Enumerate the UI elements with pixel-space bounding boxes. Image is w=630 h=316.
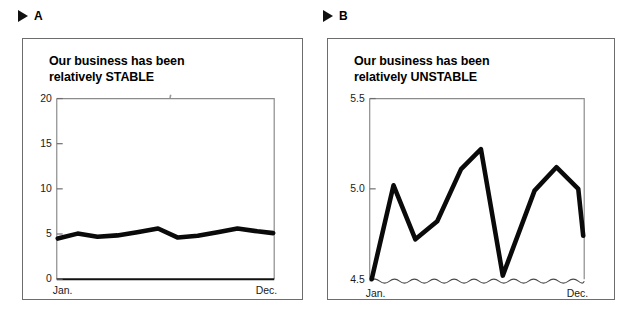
panel-b-letter: B [339, 10, 348, 22]
panel-b: B Our business has been relatively UNSTA… [315, 0, 630, 316]
panel-a-letter: A [34, 10, 43, 22]
panel-b-plot: 4.5 5.0 5.5 Jan. Dec. [328, 39, 614, 299]
panel-b-wavy-axis-break [370, 279, 585, 283]
panel-a: A Our business has been relatively STABL… [0, 0, 315, 316]
panel-b-ylabel-4-5: 4.5 [350, 274, 365, 285]
panel-b-xlabel-start: Jan. [366, 288, 386, 299]
panel-b-data-line [372, 149, 584, 279]
right-triangle-icon [18, 10, 28, 22]
panel-a-ylabel-20: 20 [40, 93, 52, 104]
panel-a-frame-top-right [57, 99, 274, 280]
panel-b-ylabel-5-0: 5.0 [350, 183, 365, 194]
two-panel-line-chart-figure: A Our business has been relatively STABL… [0, 0, 630, 316]
panel-a-xlabel-start: Jan. [53, 285, 73, 296]
panel-b-frame-top-right [370, 99, 585, 280]
panel-a-ylabel-0: 0 [46, 273, 52, 284]
panel-a-ylabel-10: 10 [40, 183, 52, 194]
right-triangle-icon [323, 10, 333, 22]
panel-b-xlabel-end: Dec. [567, 288, 588, 299]
panel-a-ylabel-5: 5 [46, 228, 52, 239]
panel-a-ylabel-15: 15 [40, 138, 52, 149]
panel-a-plot: 0 5 10 15 20 Jan. Dec. [23, 39, 302, 299]
panel-a-xlabel-end: Dec. [256, 285, 277, 296]
panel-b-marker: B [323, 8, 348, 24]
panel-a-marker: A [18, 8, 43, 24]
panel-b-chart-box: Our business has been relatively UNSTABL… [327, 38, 615, 300]
panel-a-chart-box: Our business has been relatively STABLE … [22, 38, 303, 300]
panel-a-data-line [58, 229, 273, 239]
panel-b-ylabel-5-5: 5.5 [350, 93, 365, 104]
